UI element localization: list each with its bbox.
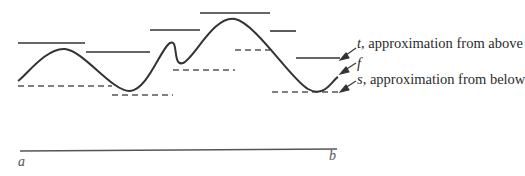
label-t-text: , approximation from above [361, 35, 523, 51]
symbol-f: f [357, 55, 361, 71]
label-t-approximation-from-above: t, approximation from above [357, 35, 523, 52]
interval-start-a: a [18, 154, 25, 170]
label-s-text: , approximation from below [363, 71, 525, 87]
interval-end-b: b [329, 148, 336, 164]
interval-baseline [20, 149, 337, 151]
label-s-approximation-from-below: s, approximation from below [357, 71, 525, 88]
label-f: f [357, 55, 361, 72]
upper-step-function-t [18, 13, 340, 58]
annotation-arrows [340, 48, 356, 92]
